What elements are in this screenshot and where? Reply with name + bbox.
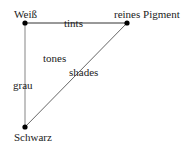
interior-label-tones: tones — [43, 52, 66, 64]
node-weiss-dot — [22, 20, 27, 25]
node-label-schwarz: Schwarz — [14, 131, 52, 143]
edge-label-tints: tints — [64, 17, 83, 29]
edge-label-grau: grau — [13, 79, 33, 91]
edge-label-shades: shades — [69, 66, 98, 78]
node-label-weiss: Weiß — [14, 8, 37, 20]
node-label-pigment: reines Pigment — [114, 8, 180, 20]
node-pigment-dot — [124, 20, 129, 25]
color-triangle-diagram: Weiß reines Pigment Schwarz tints grau s… — [0, 0, 188, 148]
node-schwarz-dot — [22, 124, 27, 129]
